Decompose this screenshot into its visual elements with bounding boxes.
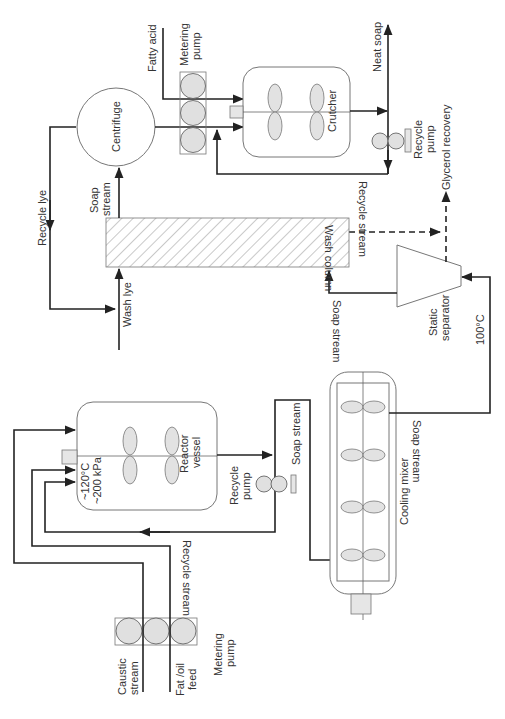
recycle-pump-crutcher (372, 129, 411, 152)
label-wash-lye: Wash lye (121, 282, 133, 327)
label-soap-1: Soap (88, 187, 100, 213)
label-recycle-pump-c-1: Recycle (412, 120, 424, 159)
metering-pump-fatty (180, 72, 206, 154)
label-recycle-pump-c-2: pump (424, 125, 436, 153)
label-metering-pump-f-1: Metering (178, 23, 190, 66)
label-pressure: ~200 kPa (91, 456, 103, 504)
label-recycle-pump-r-1: Recycle (228, 466, 240, 505)
label-recycle-pump-r-2: pump (240, 472, 252, 500)
label-metering-pump-f-2: pump (190, 32, 202, 60)
recycle-pump-reactor (256, 475, 296, 493)
label-soap-stream-sep: Soap stream (411, 420, 423, 482)
label-caustic-1: Caustic (116, 658, 128, 695)
label-soap-stream-col: Soap stream (331, 300, 343, 362)
label-soap-stream-mixer: Soap stream (290, 403, 302, 465)
label-crutcher: Crutcher (326, 89, 338, 132)
label-metering-pump-feed-2: pump (224, 639, 236, 667)
static-separator (397, 245, 461, 307)
process-flow-diagram: Caustic stream Fat /oil feed Metering pu… (0, 0, 505, 719)
label-cooling-mixer: Cooling mixer (398, 457, 410, 525)
glycerol-recovery-label: Glycerol recovery (440, 104, 452, 190)
label-wash-column: Wash column (323, 225, 335, 291)
label-metering-pump-feed-1: Metering (212, 633, 224, 676)
label-fatty-acid: Fatty acid (146, 24, 158, 72)
label-fat-2: feed (186, 669, 198, 690)
label-soap-2: stream (100, 182, 112, 216)
metering-pump-feed (115, 618, 197, 645)
label-static-2: separator (439, 294, 451, 341)
label-static-1: Static (427, 308, 439, 336)
label-reactor-1: Reactor (178, 434, 190, 473)
label-centrifuge: Centrifuge (110, 101, 122, 152)
label-fat-1: Fat /oil (174, 663, 186, 696)
label-recycle-lye: Recycle lye (36, 190, 48, 246)
cooling-mixer (330, 372, 396, 620)
soap-to-column-line (329, 271, 397, 293)
label-caustic-2: stream (128, 661, 140, 695)
label-recycle-crutcher: Recycle stream (357, 181, 369, 257)
label-temp: ~120°C (79, 463, 91, 500)
label-neat-soap: Neat soap (371, 22, 383, 72)
label-reactor-2: vessel (190, 437, 202, 468)
label-recycle-reactor: Recycle stream (181, 540, 193, 616)
wash-column (106, 218, 349, 267)
label-100c: 100°C (474, 314, 486, 345)
